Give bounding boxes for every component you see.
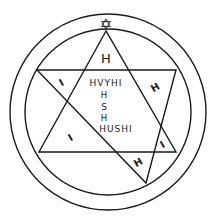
hexagram-icon [102,19,111,29]
glyph-upper-left: I [57,77,66,88]
glyph-bottom: H [132,156,145,170]
apex-letter: H [101,51,111,66]
seal-diagram: H HVYHI H S H HUSHI I H I H I [0,0,217,219]
center-line-1: HVYHI [90,78,123,88]
glyph-upper-right: H [149,81,162,95]
center-line-4: H [101,113,107,123]
outer-circle [10,14,206,210]
center-line-3: S [101,102,107,112]
glyph-lower-left: I [66,132,75,143]
center-line-5: HUSHI [99,124,133,134]
glyph-lower-right: I [158,139,167,150]
center-line-2: H [101,90,107,100]
